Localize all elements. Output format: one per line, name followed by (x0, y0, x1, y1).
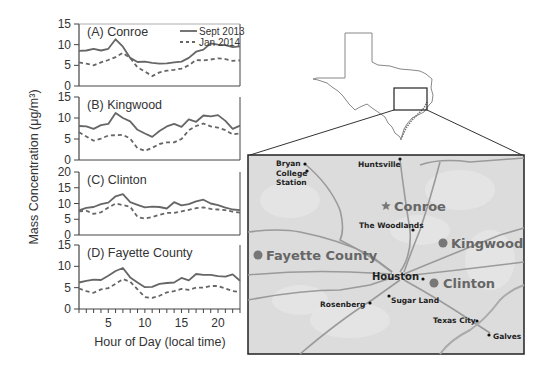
y-axis-title: Mass Concentration (μg/m³) (27, 89, 41, 244)
panel-2: 05101520(C) Clinton (58, 165, 240, 242)
series-jan-2014 (79, 124, 240, 151)
texas-outline (250, 33, 522, 155)
city-label: Texas City (433, 316, 476, 325)
series-sept-2013 (79, 194, 240, 210)
x-tick-label: 5 (105, 316, 112, 330)
y-tick-label: 10 (58, 259, 72, 273)
zoom-box (394, 88, 427, 110)
y-tick-label: 0 (64, 302, 71, 316)
y-tick-label: 20 (58, 165, 72, 179)
site-label-clinton: Clinton (443, 276, 495, 291)
series-jan-2014 (79, 279, 240, 298)
concentration-charts: 051015(A) Conroe051015(B) Kingwood051015… (0, 0, 542, 375)
svg-text:Sept 2013: Sept 2013 (199, 26, 245, 37)
y-tick-label: 10 (58, 38, 72, 52)
y-tick-label: 5 (64, 58, 71, 72)
city-label: Huntsville (358, 160, 401, 169)
kingwood-marker-icon (439, 239, 448, 248)
clinton-marker-icon (430, 279, 439, 288)
city-dot (487, 333, 490, 336)
city-label: Bryan (276, 159, 301, 168)
y-tick-label: 5 (64, 212, 71, 226)
y-tick-label: 15 (58, 17, 72, 31)
panel-title: (D) Fayette County (87, 246, 193, 260)
city-dot (303, 162, 306, 165)
houston-region-map: BryanCollegeStationHuntsvilleThe Woodlan… (248, 155, 524, 354)
panel-1: 051015(B) Kingwood (58, 90, 240, 167)
fayette-marker-icon (254, 251, 263, 260)
city-label: Galves (493, 332, 522, 341)
site-label-fayette: Fayette County (266, 248, 378, 263)
y-tick-label: 5 (64, 281, 71, 295)
panel-3: 051015(D) Fayette County (58, 238, 240, 316)
city-dot (475, 319, 478, 322)
city-label: College (276, 169, 307, 178)
x-axis-title: Hour of Day (local time) (94, 335, 225, 349)
svg-text:Jan 2014: Jan 2014 (199, 37, 241, 48)
city-label: Station (276, 178, 307, 187)
series-sept-2013 (79, 268, 240, 287)
series-jan-2014 (79, 204, 240, 219)
y-tick-label: 15 (58, 238, 72, 252)
y-tick-label: 10 (58, 111, 72, 125)
city-label: The Woodlands (359, 221, 424, 230)
y-tick-label: 15 (58, 181, 72, 195)
panel-title: (C) Clinton (87, 173, 147, 187)
city-dot (368, 301, 371, 304)
city-label-houston: Houston (372, 271, 419, 282)
city-label: Sugar Land (391, 296, 439, 305)
panel-title: (B) Kingwood (87, 98, 162, 112)
y-tick-label: 15 (58, 90, 72, 104)
x-tick-label: 15 (175, 316, 189, 330)
panel-title: (A) Conroe (87, 25, 148, 39)
series-sept-2013 (79, 113, 240, 137)
city-label: Rosenberg (320, 300, 365, 309)
site-label-kingwood: Kingwood (451, 236, 523, 251)
x-tick-label: 20 (211, 316, 225, 330)
y-tick-label: 10 (58, 197, 72, 211)
y-tick-label: 5 (64, 132, 71, 146)
legend: Sept 2013Jan 2014 (180, 26, 245, 48)
x-tick-label: 10 (138, 316, 152, 330)
site-label-conroe: Conroe (394, 199, 446, 214)
